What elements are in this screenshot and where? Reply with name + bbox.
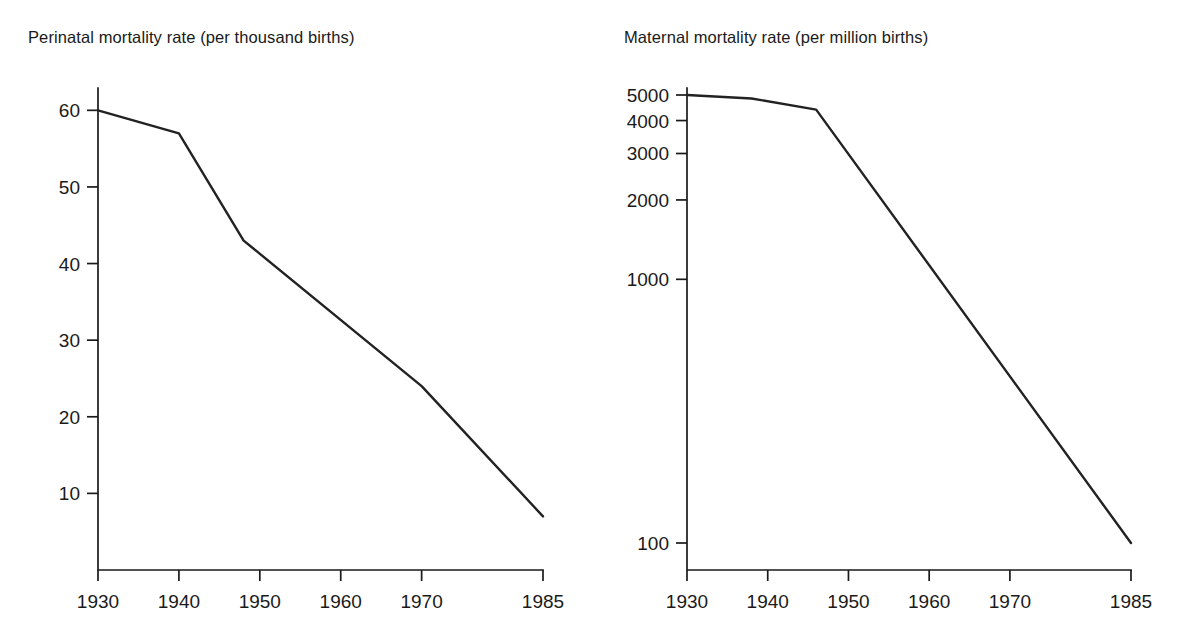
- y-tick-label: 4000: [600, 111, 669, 130]
- y-tick-label: 40: [0, 254, 80, 273]
- data-line-maternal: [687, 95, 1131, 543]
- x-tick-label: 1985: [522, 592, 564, 611]
- y-tick-label: 5000: [600, 86, 669, 105]
- plot-area-perinatal: [0, 0, 600, 640]
- x-tick-label: 1930: [666, 592, 708, 611]
- axis-lines-perinatal: [98, 88, 543, 570]
- chart-panel-perinatal: Perinatal mortality rate (per thousand b…: [0, 0, 600, 640]
- x-tick-label: 1950: [827, 592, 869, 611]
- axis-lines-maternal: [687, 88, 1131, 570]
- x-tick-label: 1940: [158, 592, 200, 611]
- y-tick-marks-perinatal: [87, 110, 98, 493]
- y-tick-label: 60: [0, 101, 80, 120]
- y-tick-label: 3000: [600, 144, 669, 163]
- x-tick-label: 1970: [989, 592, 1031, 611]
- x-tick-label: 1985: [1110, 592, 1152, 611]
- x-tick-label: 1960: [320, 592, 362, 611]
- data-line-perinatal: [98, 110, 543, 516]
- x-tick-label: 1940: [747, 592, 789, 611]
- x-tick-marks-perinatal: [98, 570, 543, 581]
- y-tick-marks-maternal: [676, 95, 687, 543]
- x-tick-label: 1960: [908, 592, 950, 611]
- y-tick-label: 50: [0, 177, 80, 196]
- y-tick-label: 2000: [600, 190, 669, 209]
- y-tick-label: 100: [600, 534, 669, 553]
- y-tick-label: 20: [0, 407, 80, 426]
- y-tick-label: 10: [0, 484, 80, 503]
- x-tick-label: 1950: [239, 592, 281, 611]
- x-tick-label: 1970: [400, 592, 442, 611]
- x-tick-label: 1930: [77, 592, 119, 611]
- y-tick-label: 1000: [600, 270, 669, 289]
- figure-container: Perinatal mortality rate (per thousand b…: [0, 0, 1182, 640]
- y-tick-label: 30: [0, 331, 80, 350]
- chart-panel-maternal: Maternal mortality rate (per million bir…: [600, 0, 1182, 640]
- plot-area-maternal: [600, 0, 1182, 640]
- x-tick-marks-maternal: [687, 570, 1131, 581]
